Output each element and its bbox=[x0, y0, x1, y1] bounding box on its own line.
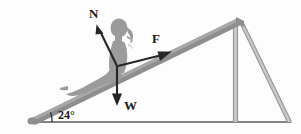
normal-force-label: N bbox=[89, 6, 99, 21]
weight-force-label: W bbox=[124, 98, 137, 113]
angle-label: 24° bbox=[58, 108, 75, 122]
diagram-canvas: 24° N F W bbox=[0, 0, 301, 134]
vertical-support-post bbox=[234, 22, 238, 122]
applied-force-label: F bbox=[152, 31, 160, 46]
physics-diagram-figure: 24° N F W bbox=[0, 0, 301, 134]
